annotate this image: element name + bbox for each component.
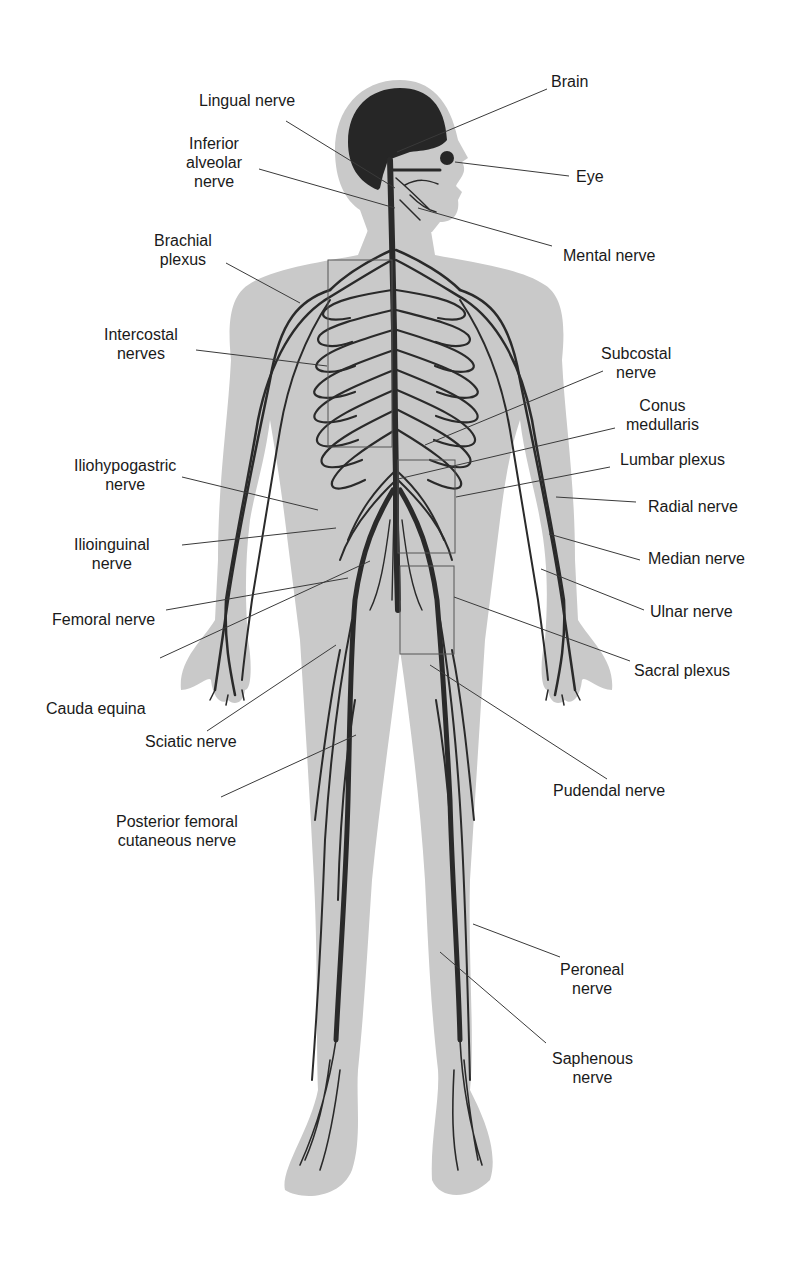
- eye-shape: [440, 151, 454, 165]
- body-silhouette: [181, 80, 612, 1196]
- label-lingual-nerve: Lingual nerve: [199, 91, 295, 110]
- label-femoral-nerve: Femoral nerve: [52, 610, 155, 629]
- label-ulnar-nerve: Ulnar nerve: [650, 602, 733, 621]
- label-cauda-equina: Cauda equina: [46, 699, 146, 718]
- label-mental-nerve: Mental nerve: [563, 246, 656, 265]
- nervous-system-diagram: [0, 0, 793, 1274]
- label-median-nerve: Median nerve: [648, 549, 745, 568]
- label-sacral-plexus: Sacral plexus: [634, 661, 730, 680]
- label-brain: Brain: [551, 72, 588, 91]
- label-radial-nerve: Radial nerve: [648, 497, 738, 516]
- label-inferior-alveolar-nerve: Inferior alveolar nerve: [186, 134, 242, 191]
- label-intercostal-nerves: Intercostal nerves: [104, 325, 178, 363]
- label-sciatic-nerve: Sciatic nerve: [145, 732, 237, 751]
- label-eye: Eye: [576, 167, 604, 186]
- label-conus-medullaris: Conus medullaris: [626, 396, 699, 434]
- label-posterior-femoral-cutaneous-nerve: Posterior femoral cutaneous nerve: [116, 812, 238, 850]
- label-brachial-plexus: Brachial plexus: [154, 231, 212, 269]
- label-peroneal-nerve: Peroneal nerve: [560, 960, 624, 998]
- label-saphenous-nerve: Saphenous nerve: [552, 1049, 633, 1087]
- label-pudendal-nerve: Pudendal nerve: [553, 781, 665, 800]
- label-iliohypogastric-nerve: Iliohypogastric nerve: [74, 456, 176, 494]
- label-lumbar-plexus: Lumbar plexus: [620, 450, 725, 469]
- label-ilioinguinal-nerve: Ilioinguinal nerve: [74, 535, 150, 573]
- label-subcostal-nerve: Subcostal nerve: [601, 344, 671, 382]
